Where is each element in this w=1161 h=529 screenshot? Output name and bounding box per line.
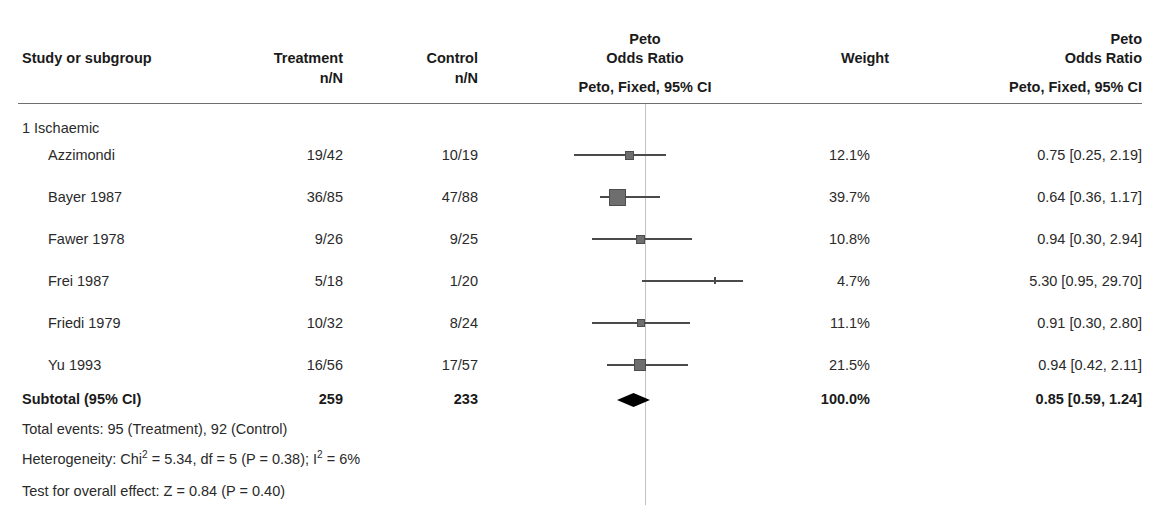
header-plot-peto: Peto [545, 31, 745, 48]
null-effect-axis-line [645, 104, 646, 505]
table-row-weight: 10.8% [790, 232, 870, 247]
ci-line-yu-1993 [607, 364, 688, 366]
subtotal-effect: 0.85 [0.59, 1.24] [900, 392, 1142, 407]
effect-box-fawer-1978 [636, 235, 645, 244]
forest-plot-figure: Study or subgroup Treatment n/N Control … [0, 0, 1161, 529]
table-row-treatment: 19/42 [183, 148, 343, 163]
table-row-control: 1/20 [338, 274, 478, 289]
table-row-study: Frei 1987 [48, 274, 109, 289]
effect-box-frei-1987 [714, 277, 716, 284]
header-plot-model: Peto, Fixed, 95% CI [535, 79, 755, 96]
table-row-treatment: 36/85 [183, 190, 343, 205]
header-study-or-subgroup: Study or subgroup [22, 50, 152, 67]
table-row-effect: 0.94 [0.42, 2.11] [900, 358, 1142, 373]
header-plot-odds-ratio: Odds Ratio [545, 50, 745, 67]
ci-line-azzimondi [574, 154, 666, 156]
table-row-control: 17/57 [338, 358, 478, 373]
ci-line-frei-1987 [642, 280, 743, 282]
table-row-treatment: 5/18 [183, 274, 343, 289]
subtotal-weight: 100.0% [790, 392, 870, 407]
table-row-control: 9/25 [338, 232, 478, 247]
subtotal-treatment: 259 [183, 392, 343, 407]
effect-box-friedi-1979 [637, 319, 645, 327]
heterogeneity-prefix: Heterogeneity: Chi [22, 451, 142, 467]
table-row-weight: 12.1% [790, 148, 870, 163]
header-weight: Weight [790, 50, 940, 67]
effect-box-azzimondi [625, 151, 634, 160]
subtotal-label: Subtotal (95% CI) [22, 392, 141, 407]
total-events-line: Total events: 95 (Treatment), 92 (Contro… [22, 422, 287, 437]
header-control-line2: n/N [338, 70, 478, 87]
table-row-effect: 0.75 [0.25, 2.19] [900, 148, 1142, 163]
table-row-control: 47/88 [338, 190, 478, 205]
table-row-study: Azzimondi [48, 148, 115, 163]
table-row-treatment: 16/56 [183, 358, 343, 373]
heterogeneity-line: Heterogeneity: Chi2 = 5.34, df = 5 (P = … [22, 452, 360, 467]
table-row-study: Friedi 1979 [48, 316, 121, 331]
table-row-treatment: 10/32 [183, 316, 343, 331]
table-row-effect: 0.91 [0.30, 2.80] [900, 316, 1142, 331]
subgroup-label: 1 Ischaemic [22, 121, 99, 136]
header-treatment-line1: Treatment [183, 50, 343, 67]
table-row-study: Fawer 1978 [48, 232, 125, 247]
overall-effect-line: Test for overall effect: Z = 0.84 (P = 0… [22, 484, 285, 499]
header-effect-model: Peto, Fixed, 95% CI [900, 79, 1142, 96]
header-effect-peto: Peto [940, 31, 1142, 48]
heterogeneity-suffix: = 6% [323, 451, 360, 467]
table-row-weight: 21.5% [790, 358, 870, 373]
effect-box-yu-1993 [634, 359, 646, 371]
table-row-control: 10/19 [338, 148, 478, 163]
table-row-weight: 39.7% [790, 190, 870, 205]
table-row-weight: 4.7% [790, 274, 870, 289]
table-row-effect: 0.64 [0.36, 1.17] [900, 190, 1142, 205]
forest-plot-canvas [520, 104, 820, 505]
table-row-weight: 11.1% [790, 316, 870, 331]
table-row-effect: 0.94 [0.30, 2.94] [900, 232, 1142, 247]
heterogeneity-middle: = 5.34, df = 5 (P = 0.38); I [148, 451, 317, 467]
subtotal-control: 233 [338, 392, 478, 407]
table-row-control: 8/24 [338, 316, 478, 331]
effect-box-bayer-1987 [609, 189, 626, 206]
header-control-line1: Control [338, 50, 478, 67]
table-row-study: Yu 1993 [48, 358, 101, 373]
table-row-treatment: 9/26 [183, 232, 343, 247]
table-row-effect: 5.30 [0.95, 29.70] [900, 274, 1142, 289]
table-row-study: Bayer 1987 [48, 190, 122, 205]
header-treatment-line2: n/N [183, 70, 343, 87]
header-effect-odds-ratio: Odds Ratio [940, 50, 1142, 67]
